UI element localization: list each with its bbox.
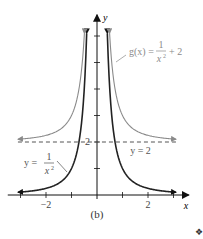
g-label-num: 1	[159, 39, 164, 50]
f-label-lhs: y =	[24, 157, 38, 168]
asymptote-label: y = 2	[130, 145, 151, 156]
g-label-lhs: g(x) =	[129, 46, 154, 58]
chart-svg: x y −222 y = 2 g(x) = 1 x 2 + 2 y = 1 x …	[0, 0, 203, 239]
y-axis-label: y	[102, 12, 108, 23]
end-marker-icon: ❖	[195, 227, 203, 237]
g-label: g(x) = 1 x 2 + 2	[116, 39, 182, 64]
f-label-num: 1	[47, 151, 52, 162]
f-label-leader	[57, 161, 67, 172]
g-label-rhs: + 2	[169, 46, 182, 57]
g-label-exp: 2	[163, 53, 166, 59]
x-tick-label: 2	[146, 199, 151, 210]
g-curve-left	[18, 33, 84, 139]
f-label: y = 1 x 2	[24, 151, 67, 176]
f-label-den: x	[44, 165, 50, 176]
figure-caption: (b)	[91, 208, 104, 221]
x-tick-label: −2	[41, 199, 52, 210]
x-axis-label: x	[183, 200, 189, 211]
g-label-leader	[116, 55, 126, 62]
g-label-den: x	[156, 53, 162, 64]
f-label-exp: 2	[51, 165, 54, 171]
